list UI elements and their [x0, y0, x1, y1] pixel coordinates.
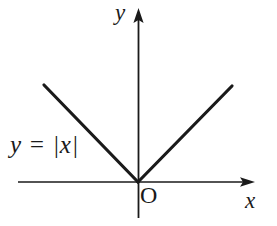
- y-axis-label: y: [115, 1, 125, 24]
- absolute-value-graph-figure: y x O y = |x|: [0, 0, 277, 226]
- coordinate-plane-svg: [0, 0, 277, 226]
- x-axis-label: x: [245, 189, 255, 212]
- function-equation-label: y = |x|: [10, 132, 79, 157]
- origin-label: O: [140, 183, 157, 207]
- curve-right-branch: [138, 86, 232, 182]
